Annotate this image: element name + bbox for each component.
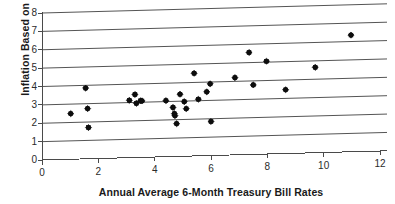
gridline: [42, 114, 387, 123]
gridline: [42, 132, 387, 141]
data-point-core: [209, 120, 213, 124]
gridlines: [42, 4, 387, 142]
data-point-core: [208, 82, 212, 86]
data-point-core: [205, 90, 209, 94]
data-point-core: [313, 65, 317, 69]
data-point-core: [233, 76, 237, 80]
data-point-core: [84, 86, 88, 90]
data-point-core: [175, 122, 179, 126]
plot-area: [0, 0, 395, 204]
x-axis-line: [42, 151, 387, 160]
data-point-core: [349, 33, 353, 37]
gridline: [42, 77, 387, 86]
data-point-core: [173, 114, 177, 118]
data-point-core: [182, 100, 186, 104]
data-point-core: [251, 83, 255, 87]
data-point-core: [133, 93, 137, 97]
gridline: [42, 22, 387, 31]
gridline: [42, 4, 387, 13]
tick-marks: [38, 13, 380, 164]
data-point-core: [86, 107, 90, 111]
data-point-core: [140, 99, 144, 103]
data-point-core: [127, 98, 131, 102]
data-point-core: [247, 51, 251, 55]
gridline: [42, 59, 387, 68]
data-point-core: [87, 126, 91, 130]
data-point-core: [134, 101, 138, 105]
data-point-core: [164, 99, 168, 103]
data-point-core: [184, 107, 188, 111]
gridline: [42, 41, 387, 50]
data-point-core: [192, 71, 196, 75]
data-point-core: [265, 59, 269, 63]
data-point-core: [284, 88, 288, 92]
data-point-core: [178, 92, 182, 96]
axes: [42, 12, 387, 165]
scatter-chart: Inflation Based on CPI Annual Average 6-…: [0, 0, 395, 204]
data-point-core: [171, 106, 175, 110]
gridline: [42, 96, 387, 105]
data-point-core: [69, 112, 73, 116]
data-point-core: [196, 97, 200, 101]
